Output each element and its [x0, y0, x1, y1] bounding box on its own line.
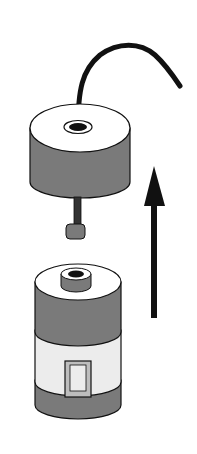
- stem: [66, 197, 85, 239]
- diagram-svg: [0, 0, 197, 454]
- diagram-canvas: [0, 0, 197, 454]
- side-window: [65, 361, 91, 397]
- cap: [30, 104, 130, 198]
- knob: [66, 224, 85, 239]
- container: [35, 264, 121, 419]
- top-port: [61, 268, 91, 292]
- up-arrow-icon: [144, 166, 165, 318]
